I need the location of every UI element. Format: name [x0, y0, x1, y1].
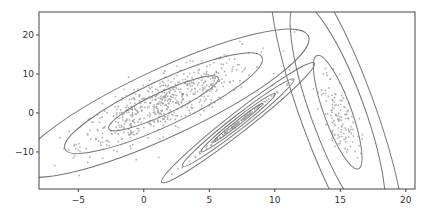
data-point [115, 96, 117, 98]
data-point [130, 123, 132, 125]
data-point [75, 148, 77, 150]
data-point [173, 112, 175, 114]
contour-line [244, 0, 431, 214]
data-point [75, 144, 77, 146]
data-point [96, 128, 98, 130]
x-tick-label: −5 [72, 195, 85, 205]
data-point [106, 112, 108, 114]
data-point [197, 70, 199, 72]
data-point [339, 136, 341, 138]
data-point [160, 113, 162, 115]
data-point [179, 91, 181, 93]
data-point [175, 87, 177, 89]
data-point [242, 71, 244, 73]
data-point [170, 100, 172, 102]
data-point [116, 114, 118, 116]
data-point [100, 142, 102, 144]
data-point [344, 127, 346, 129]
data-point [155, 99, 157, 101]
data-point [130, 147, 132, 149]
data-point [352, 141, 354, 143]
data-point [132, 144, 134, 146]
data-point [326, 72, 328, 74]
data-point [159, 138, 161, 140]
data-point [175, 115, 177, 117]
data-point [186, 94, 188, 96]
data-point [239, 80, 241, 82]
data-point [291, 79, 293, 81]
data-point [209, 64, 211, 66]
data-point [326, 75, 328, 77]
data-point [213, 80, 215, 82]
data-point [262, 47, 264, 49]
data-point [8, 160, 10, 162]
data-point [131, 116, 133, 118]
y-tick-label: 20 [23, 30, 35, 40]
data-point [197, 90, 199, 92]
data-point [157, 108, 159, 110]
data-point [348, 136, 350, 138]
data-point [187, 88, 189, 90]
data-point [151, 86, 153, 88]
data-point [130, 137, 132, 139]
data-point [339, 143, 341, 145]
data-point [170, 119, 172, 121]
data-point [341, 100, 343, 102]
data-point [223, 81, 225, 83]
data-point [74, 155, 76, 157]
data-point [337, 134, 339, 136]
data-point [130, 102, 132, 104]
data-point [78, 143, 80, 145]
data-point [149, 80, 151, 82]
data-point [142, 85, 144, 87]
data-point [79, 146, 81, 148]
data-point [166, 92, 168, 94]
data-point [332, 100, 334, 102]
data-point [260, 51, 262, 53]
data-point [194, 92, 196, 94]
data-point [244, 67, 246, 69]
data-point [323, 92, 325, 94]
data-point [122, 119, 124, 121]
data-point [164, 70, 166, 72]
x-tick-label: 15 [335, 195, 346, 205]
data-point [182, 99, 184, 101]
data-point [159, 101, 161, 103]
data-point [331, 111, 333, 113]
data-point [126, 112, 128, 114]
data-point [231, 70, 233, 72]
data-point [177, 168, 179, 170]
data-point [152, 91, 154, 93]
data-point [160, 102, 162, 104]
data-point [153, 125, 155, 127]
data-point [99, 117, 101, 119]
data-point [340, 131, 342, 133]
data-point [73, 157, 75, 159]
data-point [172, 88, 174, 90]
data-point [333, 101, 335, 103]
data-point [140, 121, 142, 123]
data-point [324, 67, 326, 69]
data-point [205, 98, 207, 100]
data-point [215, 72, 217, 74]
data-point [138, 94, 140, 96]
data-point [218, 72, 220, 74]
data-point [341, 136, 343, 138]
y-tick-label: 10 [23, 69, 35, 79]
data-point [165, 97, 167, 99]
data-point [352, 122, 354, 124]
data-point [203, 110, 205, 112]
data-point [164, 92, 166, 94]
data-point [157, 109, 159, 111]
data-point [144, 107, 146, 109]
data-point [232, 80, 234, 82]
data-point [266, 100, 268, 102]
data-point [176, 65, 178, 67]
data-point [251, 111, 253, 113]
data-point [198, 82, 200, 84]
data-point [133, 97, 135, 99]
data-point [189, 100, 191, 102]
data-point [294, 31, 296, 33]
data-point [213, 62, 215, 64]
data-point [122, 117, 124, 119]
